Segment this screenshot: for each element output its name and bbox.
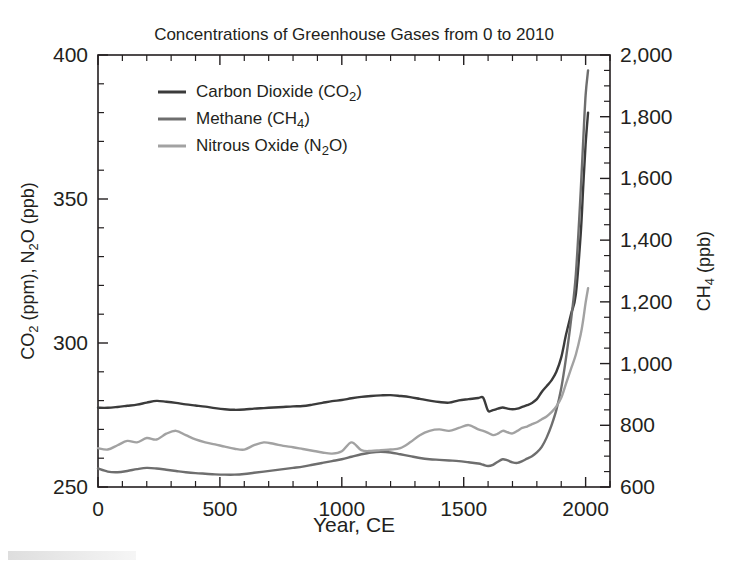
legend-label: Methane (CH4) (196, 109, 310, 131)
series-line (98, 288, 588, 453)
right-tick-label: 1,000 (620, 352, 673, 375)
right-axis-ticks (600, 55, 610, 487)
x-tick-label: 0 (92, 497, 104, 520)
series-lines (98, 70, 588, 474)
legend-label: Carbon Dioxide (CO2) (196, 82, 362, 104)
greenhouse-gas-chart: Concentrations of Greenhouse Gases from … (0, 0, 742, 574)
left-tick-label: 300 (53, 331, 88, 354)
series-line (98, 70, 588, 474)
x-tick-label: 500 (202, 497, 237, 520)
right-tick-label: 600 (620, 475, 655, 498)
right-tick-label: 2,000 (620, 43, 673, 66)
right-axis-tick-labels: 6008001,0001,2001,4001,6001,8002,000 (620, 43, 673, 498)
chart-legend: Carbon Dioxide (CO2)Methane (CH4)Nitrous… (158, 82, 362, 158)
right-tick-label: 800 (620, 413, 655, 436)
left-tick-label: 400 (53, 43, 88, 66)
right-axis-label: CH4 (ppb) (694, 231, 717, 311)
x-axis-label: Year, CE (313, 513, 395, 536)
right-tick-label: 1,200 (620, 290, 673, 313)
left-axis-label: CO2 (ppm), N2O (ppb) (18, 182, 41, 360)
x-tick-label: 1500 (440, 497, 487, 520)
right-tick-label: 1,400 (620, 228, 673, 251)
right-tick-label: 1,800 (620, 105, 673, 128)
right-tick-label: 1,600 (620, 166, 673, 189)
left-tick-label: 250 (53, 475, 88, 498)
left-axis-ticks (98, 55, 108, 487)
x-tick-label: 2000 (562, 497, 609, 520)
scan-artifact (8, 551, 136, 560)
chart-title: Concentrations of Greenhouse Gases from … (154, 25, 554, 44)
left-axis-tick-labels: 250300350400 (53, 43, 88, 498)
left-tick-label: 350 (53, 187, 88, 210)
series-line (98, 113, 588, 412)
legend-label: Nitrous Oxide (N2O) (196, 136, 348, 158)
